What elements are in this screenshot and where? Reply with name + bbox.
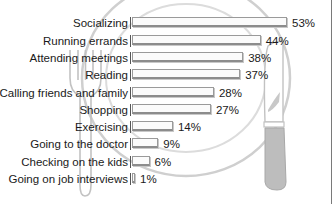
bar [132, 121, 173, 131]
category-label: Socializing [73, 16, 128, 30]
value-label: 28% [219, 86, 242, 100]
value-label: 53% [292, 16, 315, 30]
value-label: 27% [216, 103, 239, 117]
axis-tick [130, 121, 131, 133]
category-label: Going on job interviews [8, 172, 128, 186]
bar [132, 138, 158, 148]
bar-row: Exercising14% [0, 120, 334, 134]
bar-row: Checking on the kids6% [0, 155, 334, 169]
bar [132, 173, 135, 183]
bar [132, 35, 261, 45]
category-label: Calling friends and family [0, 86, 128, 100]
bar-row: Shopping27% [0, 103, 334, 117]
axis-tick [130, 35, 131, 47]
bar [132, 104, 211, 114]
bar [132, 52, 243, 62]
category-label: Checking on the kids [21, 155, 128, 169]
axis-tick [130, 138, 131, 150]
value-label: 1% [140, 172, 157, 186]
axis-tick [130, 156, 131, 168]
category-label: Exercising [75, 120, 128, 134]
axis-tick [130, 69, 131, 81]
category-label: Running errands [43, 34, 128, 48]
axis-tick [130, 104, 131, 116]
axis-tick [130, 87, 131, 99]
bar [132, 156, 150, 166]
value-label: 38% [248, 51, 271, 65]
category-label: Shopping [79, 103, 128, 117]
bar [132, 69, 240, 79]
bar-row: Reading37% [0, 68, 334, 82]
bar-row: Running errands44% [0, 34, 334, 48]
bar-row: Calling friends and family28% [0, 86, 334, 100]
axis-tick [130, 52, 131, 64]
value-label: 37% [245, 68, 268, 82]
bar-row: Going to the doctor9% [0, 137, 334, 151]
bar [132, 17, 287, 27]
bar [132, 87, 214, 97]
category-label: Attending meetings [30, 51, 128, 65]
value-label: 6% [155, 155, 172, 169]
bar-row: Socializing53% [0, 16, 334, 30]
axis-tick [130, 173, 131, 185]
axis-tick [130, 17, 131, 29]
category-label: Reading [85, 68, 128, 82]
bar-row: Attending meetings38% [0, 51, 334, 65]
category-label: Going to the doctor [30, 137, 128, 151]
value-label: 44% [266, 34, 289, 48]
bar-row: Going on job interviews1% [0, 172, 334, 186]
value-label: 9% [163, 137, 180, 151]
value-label: 14% [178, 120, 201, 134]
